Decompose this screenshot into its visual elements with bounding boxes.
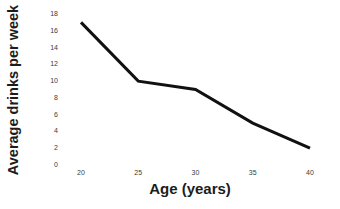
x-axis-tick-label: 35 — [240, 168, 266, 177]
line-chart: Average drinks per week 181614121086420 … — [0, 0, 340, 209]
series-polyline — [81, 22, 310, 148]
x-axis-title: Age (years) — [40, 180, 340, 197]
x-axis-tick-label: 20 — [68, 168, 94, 177]
x-axis-tick-labels: 2025303540 — [0, 168, 340, 180]
x-axis-tick-label: 25 — [125, 168, 151, 177]
x-axis-tick-label: 40 — [297, 168, 323, 177]
x-axis-tick-label: 30 — [183, 168, 209, 177]
